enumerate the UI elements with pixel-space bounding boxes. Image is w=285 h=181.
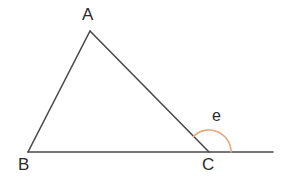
segment-ab-line: [28, 31, 90, 152]
vertex-label-c: C: [202, 156, 214, 173]
vertex-label-b: B: [18, 156, 30, 173]
geometry-diagram: A B C e: [0, 0, 285, 181]
segment-ac-line: [90, 31, 209, 152]
angle-label-e: e: [212, 108, 221, 124]
vertex-label-a: A: [82, 6, 94, 23]
geometry-canvas: [0, 0, 285, 181]
